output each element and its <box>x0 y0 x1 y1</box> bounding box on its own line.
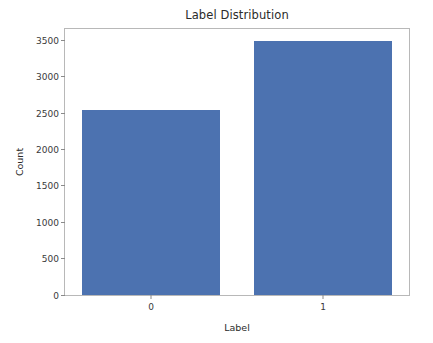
plot-area: 050010001500200025003000350001 <box>64 28 410 296</box>
y-tick-1500: 1500 <box>5 185 65 186</box>
chart-title: Label Distribution <box>64 8 410 22</box>
x-axis-label: Label <box>64 322 410 333</box>
y-tick-1000: 1000 <box>5 222 65 223</box>
y-tick-0: 0 <box>5 295 65 296</box>
y-tick-label: 2500 <box>36 108 59 118</box>
y-tick-label: 500 <box>42 254 59 264</box>
y-tick-3000: 3000 <box>5 76 65 77</box>
bar-1 <box>254 41 392 295</box>
y-axis-label: Count <box>14 148 25 176</box>
y-tick-label: 0 <box>53 290 59 300</box>
y-tick-mark <box>61 222 65 223</box>
y-tick-mark <box>61 40 65 41</box>
x-tick-mark <box>151 295 152 299</box>
y-tick-2000: 2000 <box>5 149 65 150</box>
y-tick-2500: 2500 <box>5 113 65 114</box>
y-tick-mark <box>61 113 65 114</box>
y-tick-mark <box>61 76 65 77</box>
chart-figure: Label Distribution Count 050010001500200… <box>0 0 433 343</box>
bars-layer <box>65 29 409 295</box>
y-tick-3500: 3500 <box>5 40 65 41</box>
bar-0 <box>82 110 220 295</box>
x-tick-label: 0 <box>148 302 154 312</box>
y-tick-label: 3500 <box>36 36 59 46</box>
x-tick-0: 0 <box>131 295 171 315</box>
y-tick-mark <box>61 185 65 186</box>
x-tick-label: 1 <box>320 302 326 312</box>
y-tick-label: 3000 <box>36 72 59 82</box>
y-tick-mark <box>61 258 65 259</box>
y-tick-label: 1500 <box>36 181 59 191</box>
y-tick-label: 1000 <box>36 217 59 227</box>
y-tick-label: 2000 <box>36 145 59 155</box>
y-tick-mark <box>61 149 65 150</box>
x-tick-mark <box>323 295 324 299</box>
y-tick-500: 500 <box>5 258 65 259</box>
x-tick-1: 1 <box>303 295 343 315</box>
y-tick-mark <box>61 295 65 296</box>
